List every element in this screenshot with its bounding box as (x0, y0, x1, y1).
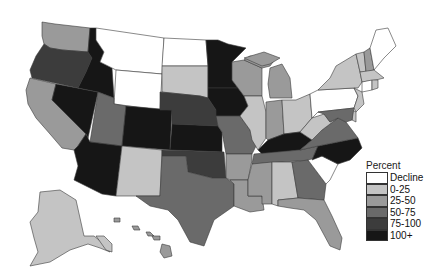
legend-swatch (366, 195, 388, 207)
legend-label: 75-100 (390, 218, 421, 229)
legend: Percent Decline 0-25 25-50 50-75 75-100 … (366, 160, 423, 241)
legend-label: 0-25 (390, 184, 410, 195)
legend-item-75-100: 75-100 (366, 218, 423, 230)
state-wy (114, 70, 162, 110)
state-hi-1 (114, 218, 120, 222)
state-hi-3 (146, 232, 154, 236)
state-ak (30, 190, 110, 266)
state-co (122, 106, 172, 150)
legend-swatch (366, 172, 388, 184)
state-ri (372, 80, 378, 90)
state-ks (170, 124, 222, 152)
state-mi-lower (268, 64, 292, 98)
legend-swatch (366, 184, 388, 196)
legend-item-50-75: 50-75 (366, 207, 423, 219)
legend-item-25-50: 25-50 (366, 195, 423, 207)
legend-swatch (366, 230, 388, 242)
state-nm (116, 146, 162, 196)
legend-swatch (366, 207, 388, 219)
state-hi-5 (160, 244, 172, 258)
state-hi-2 (132, 226, 140, 230)
legend-label: Decline (390, 172, 423, 183)
state-fl (278, 198, 342, 250)
state-nd (162, 38, 208, 66)
legend-item-0-25: 0-25 (366, 184, 423, 196)
state-ny (318, 54, 362, 90)
legend-label: 25-50 (390, 195, 416, 206)
legend-label: 100+ (390, 230, 413, 241)
legend-swatch (366, 218, 388, 230)
legend-item-decline: Decline (366, 172, 423, 184)
legend-item-100-plus: 100+ (366, 230, 423, 242)
state-me (370, 28, 396, 70)
state-hi-4 (152, 236, 160, 240)
state-ct (362, 80, 372, 92)
legend-label: 50-75 (390, 207, 416, 218)
state-ar (226, 154, 252, 180)
legend-title: Percent (366, 160, 423, 171)
state-in (266, 100, 284, 140)
